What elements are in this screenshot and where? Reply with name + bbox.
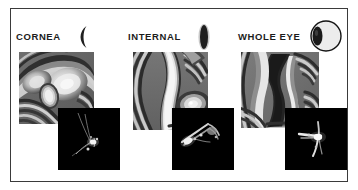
figure-frame: CORNEA [10,8,348,182]
figure-root: CORNEA [0,0,358,190]
panel-cornea: CORNEA [11,9,121,181]
panel-label-cornea: CORNEA [16,31,61,42]
whole-eye-point-spread-function [285,108,347,170]
panel-label-whole-eye: WHOLE EYE [238,31,300,42]
cornea-crescent-icon [73,24,95,50]
cornea-point-spread-function [58,108,120,170]
internal-point-spread-function [172,108,234,170]
eyeball-icon [307,18,343,54]
panel-label-internal: INTERNAL [128,31,181,42]
panel-whole-eye: WHOLE EYE [235,9,349,181]
lens-ellipse-icon [196,23,212,51]
panel-internal: INTERNAL [124,9,234,181]
